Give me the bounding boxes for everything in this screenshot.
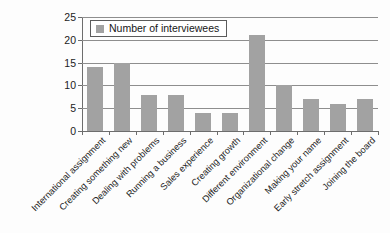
x-tick-mark-1 [109,131,110,135]
bar [87,67,103,131]
bar [330,104,346,131]
bar [141,95,157,131]
gridline-25 [82,17,378,18]
bar [357,99,373,131]
x-tick-mark-3 [163,131,164,135]
bar-chart: 0510152025 International assignmentCreat… [0,0,390,233]
bar [222,113,238,131]
x-tick-mark-0 [82,131,83,135]
x-tick-mark-10 [351,131,352,135]
y-tick-label-20: 20 [54,35,76,46]
x-tick-mark-6 [243,131,244,135]
y-tick-label-5: 5 [54,103,76,114]
y-tick-mark-25 [78,17,82,18]
bar [168,95,184,131]
x-tick-mark-9 [324,131,325,135]
y-tick-mark-15 [78,63,82,64]
y-tick-mark-20 [78,40,82,41]
x-tick-mark-2 [136,131,137,135]
y-tick-label-25: 25 [54,12,76,23]
bar [114,63,130,131]
y-tick-label-10: 10 [54,80,76,91]
x-tick-mark-8 [297,131,298,135]
y-tick-mark-5 [78,108,82,109]
bar [195,113,211,131]
y-tick-label-0: 0 [54,126,76,137]
y-tick-label-15: 15 [54,58,76,69]
bar [249,35,265,131]
legend-swatch-icon [96,25,104,33]
bar [303,99,319,131]
chart-legend: Number of interviewees [90,20,227,37]
x-tick-mark-5 [217,131,218,135]
x-tick-mark-end [378,131,379,135]
gridline-20 [82,40,378,41]
x-tick-mark-7 [270,131,271,135]
bar [276,85,292,131]
y-tick-mark-10 [78,85,82,86]
legend-label: Number of interviewees [109,23,219,34]
x-tick-mark-4 [190,131,191,135]
gridline-0 [82,131,378,132]
